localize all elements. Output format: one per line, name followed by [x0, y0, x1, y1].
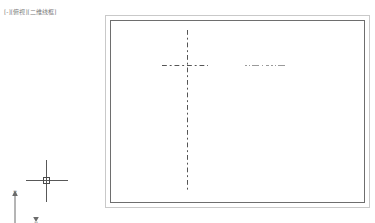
cad-model-space: [-][俯视][二维线框] Y X [0, 0, 375, 223]
drawing-canvas[interactable] [0, 0, 375, 223]
ucs-axes-graphic: Y X [6, 186, 52, 223]
inner-rectangle[interactable] [110, 20, 365, 203]
ucs-icon[interactable]: Y X [6, 186, 52, 223]
secondary-centerline[interactable] [245, 65, 288, 66]
ucs-x-label: X [34, 220, 38, 223]
ucs-y-label: Y [12, 189, 17, 196]
horizontal-centerline[interactable] [162, 65, 208, 66]
vertical-centerline[interactable] [186, 30, 188, 190]
